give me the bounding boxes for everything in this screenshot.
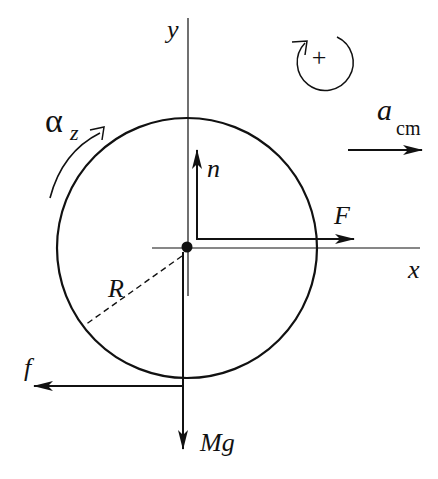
positive-rotation-label: + — [312, 43, 327, 72]
free-body-diagram: y x n F f Mg R α z a cm + — [0, 0, 438, 479]
center-of-mass-dot — [182, 242, 193, 253]
angular-acceleration-label: α — [45, 102, 63, 139]
acceleration-subscript: cm — [396, 117, 421, 139]
applied-force-label: F — [333, 201, 351, 230]
radius-label: R — [107, 274, 124, 303]
y-axis-label: y — [164, 15, 179, 44]
normal-force-label: n — [207, 154, 220, 183]
angular-acceleration-subscript: z — [69, 120, 79, 145]
friction-label: f — [24, 353, 35, 382]
x-axis-label: x — [407, 255, 420, 284]
weight-label: Mg — [199, 428, 235, 457]
radius-line — [85, 256, 182, 325]
acceleration-symbol: a — [377, 93, 392, 126]
